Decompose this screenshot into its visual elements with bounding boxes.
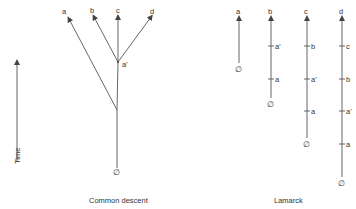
branch-b: [94, 17, 118, 62]
branch-a: [69, 19, 117, 110]
tip-label-a: a: [62, 7, 67, 16]
branch-d: [118, 17, 151, 62]
lamarck-lineages: a ∅ b a' a ∅ c b a' a ∅ d: [235, 7, 352, 205]
root-label: ∅: [113, 168, 120, 177]
node-point: [117, 61, 119, 63]
time-axis-label: Time: [13, 148, 22, 164]
lineage-b: b a' a ∅: [267, 7, 281, 109]
tick-label: b: [311, 42, 315, 51]
common-descent-tree: a b c d a' ∅ Common descent: [62, 6, 154, 205]
evolution-diagram: Time a b c d a' ∅ Common descent a ∅ b a…: [0, 0, 356, 209]
tick-label: b: [346, 75, 350, 84]
lineage-root-label: ∅: [338, 179, 345, 188]
lamarck-caption: Lamarck: [274, 196, 303, 205]
tip-label-d: d: [150, 7, 154, 16]
lineage-a: a ∅: [235, 7, 242, 74]
node-label: a': [122, 60, 128, 69]
lineage-root-label: ∅: [235, 65, 242, 74]
lineage-tip-label: b: [268, 7, 272, 16]
tick-label: a': [311, 75, 317, 84]
lineage-tip-label: c: [304, 7, 308, 16]
lineage-root-label: ∅: [267, 100, 274, 109]
tick-label: c: [346, 42, 350, 51]
tick-label: a': [275, 42, 281, 51]
lineage-root-label: ∅: [303, 140, 310, 149]
lineage-c: c b a' a ∅: [303, 7, 317, 149]
lineage-d: d c b a' a ∅: [338, 7, 352, 188]
tick-label: a: [311, 107, 316, 116]
trunk-upper: [117, 62, 118, 110]
tip-label-c: c: [116, 6, 120, 15]
time-axis: Time: [13, 62, 22, 164]
tip-label-b: b: [90, 6, 94, 15]
lineage-tip-label: a: [236, 7, 241, 16]
lineage-tip-label: d: [339, 7, 343, 16]
tick-label: a': [346, 107, 352, 116]
common-descent-caption: Common descent: [89, 196, 149, 205]
tick-label: a: [275, 75, 280, 84]
tick-label: a: [346, 140, 351, 149]
